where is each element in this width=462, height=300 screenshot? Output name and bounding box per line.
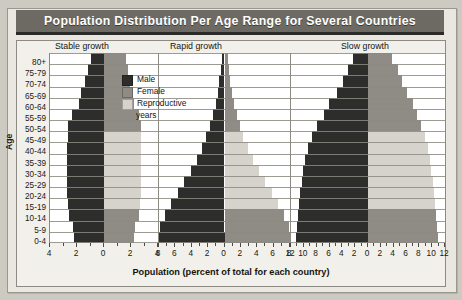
- x-axis: 42024: [49, 243, 157, 249]
- x-tick-label: 4: [248, 248, 264, 258]
- x-tick-mark: [418, 243, 419, 247]
- x-tick-mark: [303, 243, 304, 247]
- panel-title: Rapid growth: [170, 41, 222, 51]
- pyramid-row: [291, 165, 445, 176]
- bar-male: [178, 187, 225, 198]
- bar-female: [225, 87, 232, 98]
- x-tick-mark-minor: [296, 243, 297, 246]
- gridline: [159, 53, 290, 54]
- pyramid-row: [159, 165, 290, 176]
- bar-female: [368, 120, 421, 131]
- x-tick-label: 0: [95, 248, 111, 258]
- bar-female-reproductive: [104, 154, 141, 165]
- pyramid-row: [159, 131, 290, 142]
- bar-male: [88, 64, 104, 75]
- y-tick-label: 15-19: [14, 202, 46, 213]
- pyramid-row: [50, 221, 158, 232]
- x-tick-mark: [367, 243, 368, 247]
- bar-female: [368, 221, 437, 232]
- bar-male: [343, 75, 368, 86]
- x-tick-mark: [431, 243, 432, 247]
- gridline: [291, 120, 445, 121]
- bar-female: [225, 120, 240, 131]
- pyramid-row: [50, 198, 158, 209]
- bar-female: [225, 109, 237, 120]
- bar-female-reproductive: [368, 154, 430, 165]
- pyramid-row: [291, 64, 445, 75]
- gridline: [291, 98, 445, 99]
- bar-male: [191, 165, 224, 176]
- bar-female: [368, 98, 413, 109]
- pyramid-row: [159, 209, 290, 220]
- bar-male: [73, 221, 104, 232]
- bar-male: [197, 154, 225, 165]
- x-tick-mark: [191, 243, 192, 247]
- x-tick-mark-minor: [438, 243, 439, 246]
- x-tick-label: 4: [183, 248, 199, 258]
- bar-male: [308, 142, 368, 153]
- bar-female: [225, 75, 231, 86]
- y-tick-label: 20-24: [14, 191, 46, 202]
- bar-female-reproductive: [368, 142, 428, 153]
- bar-male: [202, 142, 225, 153]
- y-tick-label: 60-64: [14, 102, 46, 113]
- x-axis: 12108642024681012: [290, 243, 444, 249]
- bar-female-reproductive: [225, 154, 253, 165]
- bar-male: [298, 209, 368, 220]
- bar-male: [337, 87, 368, 98]
- gridline: [291, 131, 445, 132]
- gridline: [159, 142, 290, 143]
- x-tick-label: 2: [232, 248, 248, 258]
- y-axis-title: Age: [4, 134, 14, 150]
- bar-male: [303, 165, 368, 176]
- legend-item: Female: [122, 86, 186, 97]
- x-tick-mark: [76, 243, 77, 247]
- bar-male: [210, 120, 225, 131]
- bar-female: [368, 209, 436, 220]
- pyramid-row: [159, 120, 290, 131]
- x-tick-mark-minor: [183, 243, 184, 246]
- gridline: [159, 176, 290, 177]
- bar-female-reproductive: [225, 165, 259, 176]
- title-banner: Population Distribution Per Age Range fo…: [16, 10, 444, 35]
- bar-male: [67, 154, 104, 165]
- bar-male: [213, 109, 225, 120]
- pyramid-row: [50, 165, 158, 176]
- bar-female-reproductive: [368, 176, 433, 187]
- gridline: [291, 75, 445, 76]
- legend-swatch-female: [122, 87, 133, 98]
- y-tick-label: 30-34: [14, 169, 46, 180]
- y-tick-label: 80+: [14, 57, 46, 68]
- bar-female: [368, 87, 407, 98]
- pyramid-row: [291, 198, 445, 209]
- x-tick-mark: [329, 243, 330, 247]
- bar-male: [160, 221, 224, 232]
- x-tick-label: 12: [436, 248, 452, 258]
- gridline: [159, 187, 290, 188]
- bar-male: [317, 120, 368, 131]
- pyramid-row: [291, 109, 445, 120]
- pyramid-row: [159, 198, 290, 209]
- x-tick-mark-minor: [117, 243, 118, 246]
- pyramid-row: [159, 187, 290, 198]
- pyramid-row: [159, 176, 290, 187]
- bar-female-reproductive: [104, 165, 141, 176]
- bar-male: [216, 98, 225, 109]
- x-tick-mark: [380, 243, 381, 247]
- x-tick-mark-minor: [399, 243, 400, 246]
- gridline: [50, 187, 158, 188]
- x-tick-mark: [273, 243, 274, 247]
- bar-female-reproductive: [225, 187, 272, 198]
- page-title: Population Distribution Per Age Range fo…: [44, 14, 416, 28]
- x-tick-mark: [103, 243, 104, 247]
- bar-male: [302, 176, 368, 187]
- x-tick-mark: [341, 243, 342, 247]
- x-tick-label: 6: [166, 248, 182, 258]
- figure-root: Population Distribution Per Age Range fo…: [0, 0, 462, 300]
- gridline: [291, 232, 445, 233]
- gridline: [159, 64, 290, 65]
- bar-female-reproductive: [225, 198, 279, 209]
- bar-male: [81, 87, 104, 98]
- bar-male: [348, 64, 368, 75]
- bar-male: [206, 131, 224, 142]
